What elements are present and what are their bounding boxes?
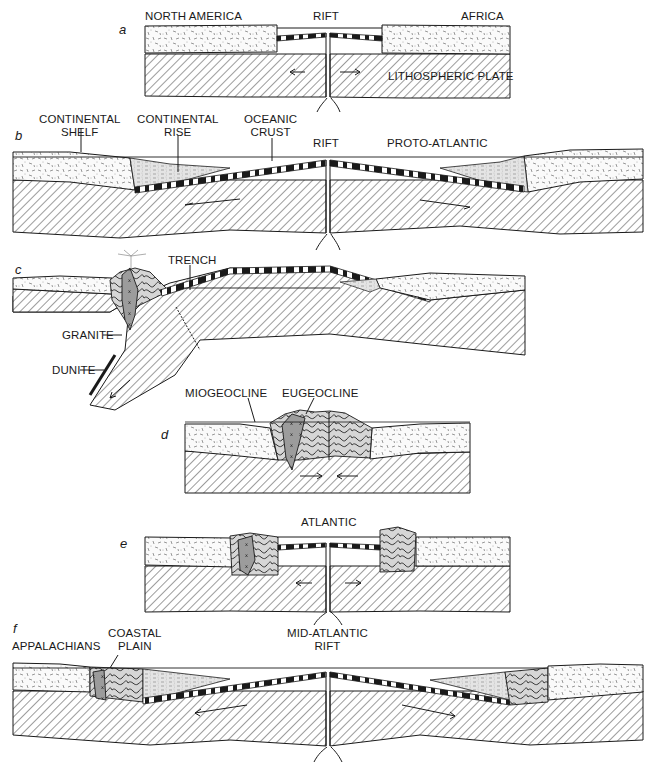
- label-granite: GRANITE: [62, 329, 114, 342]
- panel-letter-e: e: [120, 536, 127, 551]
- label-miogeocline: MIOGEOCLINE: [185, 387, 267, 400]
- label-africa: AFRICA: [461, 10, 504, 23]
- label-rift-b: RIFT: [313, 137, 339, 150]
- label-rift-a: RIFT: [313, 10, 339, 23]
- africa-crust: [382, 25, 510, 54]
- panel-e: [145, 527, 510, 625]
- label-continental-shelf-line1: CONTINENTAL: [39, 113, 120, 126]
- panel-letter-d: d: [161, 427, 168, 442]
- label-mid-atlantic-rift-line1: MID-ATLANTIC: [287, 627, 368, 640]
- panel-letter-a: a: [119, 22, 126, 37]
- label-proto-atlantic: PROTO-ATLANTIC: [387, 137, 488, 150]
- label-continental-shelf-line2: SHELF: [39, 126, 120, 139]
- panel-a: [145, 25, 510, 112]
- label-coastal-plain-line1: COASTAL: [108, 627, 162, 640]
- label-mid-atlantic-rift: MID-ATLANTIC RIFT: [287, 627, 368, 653]
- panel-letter-c: c: [15, 262, 22, 277]
- label-coastal-plain: COASTAL PLAIN: [108, 627, 162, 653]
- label-oceanic-crust-line2: CRUST: [244, 126, 297, 139]
- oceanic-crust-a: [277, 33, 326, 41]
- label-oceanic-crust: OCEANIC CRUST: [244, 113, 297, 139]
- label-lithospheric-plate: LITHOSPHERIC PLATE: [388, 70, 514, 83]
- label-dunite: DUNITE: [52, 364, 95, 377]
- label-continental-rise: CONTINENTAL RISE: [137, 113, 218, 139]
- lithospheric-plate-left: [145, 54, 326, 97]
- label-continental-rise-line2: RISE: [137, 126, 218, 139]
- label-continental-shelf: CONTINENTAL SHELF: [39, 113, 120, 139]
- label-coastal-plain-line2: PLAIN: [108, 640, 162, 653]
- panel-letter-f: f: [13, 621, 17, 636]
- label-trench: TRENCH: [168, 254, 217, 267]
- panel-letter-b: b: [15, 128, 22, 143]
- label-continental-rise-line1: CONTINENTAL: [137, 113, 218, 126]
- panel-f: [13, 655, 643, 762]
- label-oceanic-crust-line1: OCEANIC: [244, 113, 297, 126]
- label-north-america: NORTH AMERICA: [145, 10, 242, 23]
- north-america-crust: [145, 25, 277, 53]
- panel-d: [185, 398, 470, 493]
- label-eugeocline: EUGEOCLINE: [282, 387, 358, 400]
- label-atlantic: ATLANTIC: [301, 516, 357, 529]
- label-mid-atlantic-rift-line2: RIFT: [287, 640, 368, 653]
- label-appalachians: APPALACHIANS: [12, 640, 101, 653]
